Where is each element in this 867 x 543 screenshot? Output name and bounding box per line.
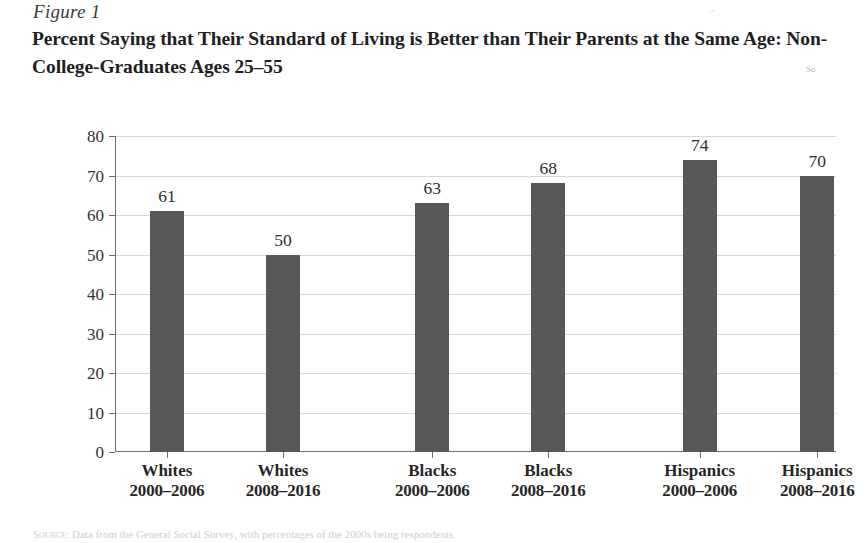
x-axis-tick-mark [700,452,701,458]
x-axis-category-label: Blacks2008–2016 [478,461,618,501]
y-axis-tick-label: 30 [58,326,104,343]
bar-value-label: 50 [253,232,313,250]
bar-chart: 01020304050607080 615063687470 Whites200… [0,0,867,500]
x-axis-category-label: Whites2008–2016 [213,461,353,501]
y-axis-tick-label: 70 [58,168,104,185]
x-axis-category-period: 2008–2016 [747,481,867,501]
x-axis-tick-mark [167,452,168,458]
x-axis-tick-mark [283,452,284,458]
y-axis-tick-mark [109,452,115,453]
x-axis-category-name: Blacks [478,461,618,481]
bar-series [115,136,836,452]
x-axis-tick-mark [817,452,818,458]
bar[interactable] [266,255,300,453]
y-axis-tick-label: 80 [58,128,104,145]
bar-value-label: 68 [518,160,578,178]
bar[interactable] [150,211,184,452]
x-axis-category-name: Hispanics [747,461,867,481]
x-axis-category-period: 2008–2016 [213,481,353,501]
bar-value-label: 61 [137,188,197,206]
x-axis-tick-mark [432,452,433,458]
y-axis-tick-label: 10 [58,405,104,422]
x-axis-tick-mark [548,452,549,458]
bar[interactable] [800,176,834,453]
y-axis-tick-label: 50 [58,247,104,264]
y-axis-tick-label: 0 [58,444,104,461]
bar[interactable] [415,203,449,452]
bar-value-label: 63 [402,180,462,198]
y-axis-tick-label: 40 [58,286,104,303]
bar-value-label: 70 [787,153,847,171]
x-axis-category-period: 2008–2016 [478,481,618,501]
x-axis-category-name: Whites [213,461,353,481]
source-note-text: Data from the General Social Survey, wit… [72,528,453,540]
y-axis-tick-label: 20 [58,365,104,382]
bar[interactable] [531,183,565,452]
y-axis-tick-label: 60 [58,207,104,224]
bar-value-label: 74 [670,137,730,155]
bar[interactable] [683,160,717,452]
x-axis-category-label: Hispanics2008–2016 [747,461,867,501]
source-note: Source: Data from the General Social Sur… [33,528,833,541]
source-note-prefix: Source: [33,528,69,540]
